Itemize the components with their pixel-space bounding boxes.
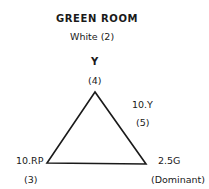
color-triangle (0, 0, 209, 189)
